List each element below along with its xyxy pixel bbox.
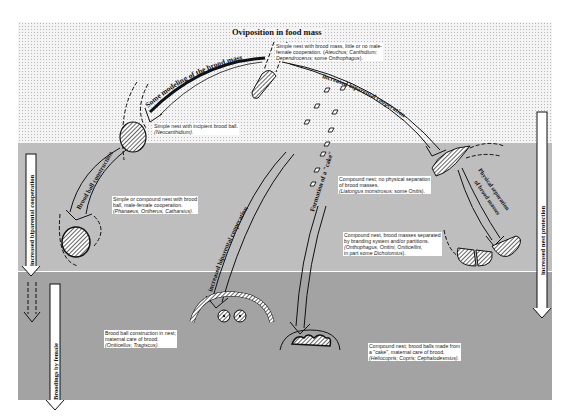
- nest-label-no-separation: Compound nest; no physical separation of…: [338, 176, 431, 194]
- biparental-cooperation-arrow-top: [282, 62, 446, 156]
- compound-nest-no-separation-icon: [432, 143, 504, 176]
- brood-ball-label: Brood ball construction: [75, 150, 114, 211]
- biparental-mid-label: increased biparental cooperation: [206, 205, 249, 292]
- cake-label: Formation of a "cake": [308, 150, 334, 212]
- cake-nest-icon: [280, 330, 340, 350]
- nest-label-cake: Compound nest; brood balls made from a "…: [368, 343, 461, 361]
- separated-brood-masses-icon: [444, 230, 521, 266]
- right-side-label: increased nest protection: [539, 206, 546, 275]
- nest-label-incipient-ball: Simple nest with incipient brood ball. (…: [153, 123, 239, 135]
- brood-ball-male-female-icon: [59, 214, 101, 266]
- diagram-graphics: Some modeling of the brood mass increase…: [0, 0, 567, 419]
- nest-label-male-female: Simple or compound nest with brood ball,…: [112, 196, 198, 214]
- cake-formation-arrow: [290, 206, 326, 334]
- modeling-arrow-label: Some modeling of the brood mass: [143, 52, 243, 109]
- nest-label-branding: Compound nest, brood masses separated by…: [343, 232, 442, 256]
- left-side-label: increased biparental cooperation: [28, 174, 35, 266]
- left-dashed-arrow: [24, 282, 40, 322]
- nest-label-maternal-ball: Brood ball construction in nest; materna…: [104, 330, 177, 348]
- biparental-cooperation-arrow-mid: [206, 152, 294, 308]
- maternal-brood-ball-nest-icon: [192, 294, 272, 322]
- brooding-label: Broodings by female: [52, 343, 59, 400]
- nest-label-simple-brood-mass: Simple nest with brood mass, little or n…: [275, 43, 383, 61]
- incipient-brood-ball-icon: [120, 82, 148, 160]
